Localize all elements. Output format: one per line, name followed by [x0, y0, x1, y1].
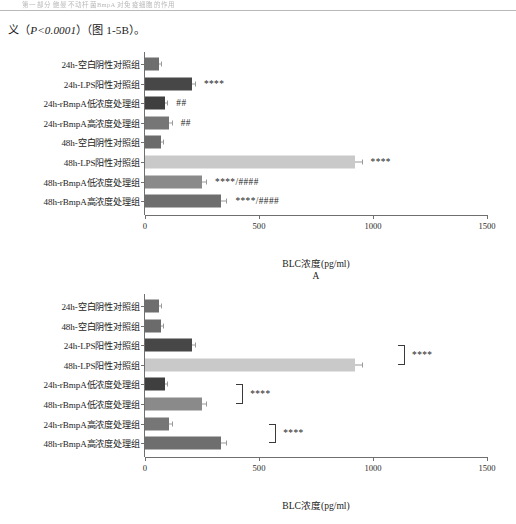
chart-b-bar	[145, 437, 221, 450]
running-header-text: 第一部分 鲍曼不动杆菌BmpA 对免疫细胞的作用	[22, 0, 175, 9]
chart-b-error-cap	[206, 402, 207, 407]
chart-b-error-cap	[362, 362, 363, 367]
chart-a-category-label: 48h-rBmpA低浓度处理组	[44, 175, 140, 189]
chart-b-error-cap	[172, 421, 173, 426]
figure-panel-b: 24h-空白阴性对照组48h-空白阴性对照组24h-LPS阳性对照组48h-LP…	[0, 292, 516, 524]
chart-b-bracket-significance-label: ****	[250, 389, 270, 399]
chart-a-bar	[145, 195, 221, 208]
chart-a-category-label: 24h-rBmpA低浓度处理组	[44, 96, 140, 110]
chart-b-error-cap	[195, 343, 196, 348]
chart-b-comparison-bracket	[236, 384, 243, 404]
chart-a-error-cap	[167, 101, 168, 106]
chart-b-bar	[145, 417, 169, 430]
chart-b-category-label: 24h-空白阴性对照组	[61, 299, 140, 313]
chart-a-category-label: 24h-rBmpA高浓度处理组	[44, 116, 140, 130]
chart-a-x-tick	[145, 215, 146, 219]
page-running-header: 第一部分 鲍曼不动杆菌BmpA 对免疫细胞的作用	[0, 0, 516, 12]
chart-b-category-label: 48h-LPS阳性对照组	[64, 358, 140, 372]
chart-b-x-tick-label: 500	[253, 463, 266, 473]
chart-a-panel-letter: A	[313, 271, 320, 281]
chart-a-x-axis	[145, 215, 487, 216]
chart-b-error-cap	[167, 382, 168, 387]
chart-a-bar	[145, 136, 161, 149]
chart-a-bar	[145, 58, 159, 71]
chart-a-x-tick-label: 0	[143, 221, 147, 231]
chart-b-bar	[145, 358, 355, 371]
paragraph-prefix: 义（	[8, 24, 30, 36]
chart-a-axis-title: BLC浓度(pg/ml)	[282, 256, 349, 270]
chart-b-category-label: 24h-rBmpA低浓度处理组	[44, 377, 140, 391]
chart-b-bracket-significance-label: ****	[412, 350, 432, 360]
chart-a-x-tick-label: 1500	[478, 221, 495, 231]
chart-a-significance-label: ****	[204, 79, 224, 89]
chart-b-category-label: 24h-LPS阳性对照组	[64, 338, 140, 352]
chart-a-x-tick	[487, 215, 488, 219]
chart-a-significance-label: ##	[181, 118, 191, 128]
chart-a-significance-label: ##	[176, 98, 186, 108]
chart-b-bar	[145, 398, 202, 411]
chart-b-x-tick	[487, 457, 488, 461]
chart-a-bar	[145, 175, 202, 188]
chart-b-category-label: 24h-rBmpA高浓度处理组	[44, 417, 140, 431]
chart-a-category-label: 48h-rBmpA高浓度处理组	[44, 194, 140, 208]
chart-a-error-cap	[163, 140, 164, 145]
chart-a-category-label: 48h-空白阴性对照组	[61, 135, 140, 149]
chart-a-error-cap	[206, 179, 207, 184]
chart-b-error-cap	[161, 304, 162, 309]
chart-a-error-cap	[161, 62, 162, 67]
chart-b-x-tick-label: 0	[143, 463, 147, 473]
chart-a-x-tick	[373, 215, 374, 219]
chart-b-error-cap	[226, 441, 227, 446]
chart-b-x-tick	[145, 457, 146, 461]
chart-b-x-tick-label: 1500	[478, 463, 495, 473]
chart-a-category-label: 24h-空白阴性对照组	[61, 57, 140, 71]
chart-b-comparison-bracket	[398, 345, 405, 365]
chart-a-category-label: 24h-LPS阳性对照组	[64, 77, 140, 91]
chart-a-error-cap	[172, 120, 173, 125]
body-paragraph: 义（P<0.0001）（图 1-5B）。	[8, 21, 145, 37]
chart-b-bracket-significance-label: ****	[283, 428, 303, 438]
chart-b-bar	[145, 378, 165, 391]
chart-a-x-tick-label: 500	[253, 221, 266, 231]
chart-b-category-label: 48h-rBmpA低浓度处理组	[44, 397, 140, 411]
chart-a-error-cap	[226, 199, 227, 204]
chart-a-x-tick-label: 1000	[364, 221, 381, 231]
chart-a-bar	[145, 116, 169, 129]
chart-a-error-cap	[362, 160, 363, 165]
chart-a-x-tick	[259, 215, 260, 219]
chart-a-bar	[145, 77, 192, 90]
chart-b-error-cap	[163, 323, 164, 328]
chart-b-x-tick	[373, 457, 374, 461]
chart-b-category-label: 48h-rBmpA高浓度处理组	[44, 436, 140, 450]
chart-a-category-label: 48h-LPS阳性对照组	[64, 155, 140, 169]
chart-b-error-bar	[355, 364, 362, 365]
chart-a-error-bar	[355, 162, 362, 163]
chart-b-axis-title: BLC浓度(pg/ml)	[282, 498, 349, 512]
chart-a-significance-label: ****	[371, 157, 391, 167]
paragraph-pvalue: P<0.0001	[30, 24, 76, 36]
chart-b-x-tick	[259, 457, 260, 461]
paragraph-suffix: ）（图 1-5B）。	[76, 24, 145, 36]
figure-panel-a: 24h-空白阴性对照组24h-LPS阳性对照组24h-rBmpA低浓度处理组24…	[0, 50, 516, 282]
chart-a-error-cap	[195, 81, 196, 86]
header-divider-rule	[0, 10, 516, 11]
chart-b-x-axis	[145, 457, 487, 458]
chart-a-bar	[145, 156, 355, 169]
chart-b-x-tick-label: 1000	[364, 463, 381, 473]
chart-b-comparison-bracket	[269, 424, 276, 444]
chart-b-bar	[145, 300, 159, 313]
chart-a-significance-label: ****/####	[215, 177, 259, 187]
chart-b-category-label: 48h-空白阴性对照组	[61, 319, 140, 333]
chart-a-significance-label: ****/####	[235, 196, 279, 206]
chart-b-bar	[145, 319, 161, 332]
chart-b-bar	[145, 339, 192, 352]
chart-a-bar	[145, 97, 165, 110]
